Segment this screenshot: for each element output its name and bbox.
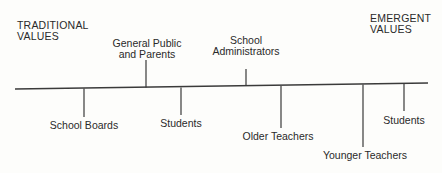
traditional-values-label: TRADITIONAL VALUES: [17, 20, 89, 41]
label-general-public-line2: and Parents: [113, 49, 182, 60]
label-students-1: Students: [160, 118, 201, 129]
traditional-values-line1: TRADITIONAL: [17, 20, 89, 31]
continuum-axis: [15, 83, 428, 89]
emergent-values-label: EMERGENT VALUES: [370, 13, 431, 34]
label-older-teachers: Older Teachers: [242, 131, 313, 142]
label-students-2: Students: [383, 115, 424, 126]
label-younger-teachers: Younger Teachers: [323, 150, 407, 161]
emergent-values-line1: EMERGENT: [370, 13, 431, 24]
label-general-public: General Public and Parents: [113, 38, 182, 60]
label-school-boards: School Boards: [50, 120, 118, 131]
values-continuum-diagram: TRADITIONAL VALUES EMERGENT VALUES Gener…: [0, 0, 442, 173]
label-school-admin-line2: Administrators: [212, 46, 279, 57]
emergent-values-line2: VALUES: [370, 24, 431, 35]
label-school-admin: School Administrators: [212, 35, 279, 57]
traditional-values-line2: VALUES: [17, 31, 89, 42]
